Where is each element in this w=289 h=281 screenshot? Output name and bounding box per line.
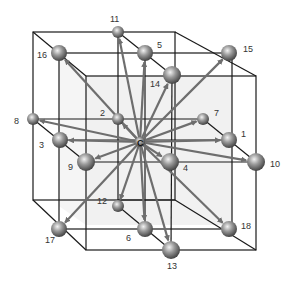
node-label-7: 7 xyxy=(214,108,219,118)
node-label-17: 17 xyxy=(45,235,55,245)
node-label-3: 3 xyxy=(39,140,44,150)
node-label-13: 13 xyxy=(167,261,177,271)
lattice-node-15 xyxy=(221,45,237,61)
lattice-svg: 123456789101112131415161718 C xyxy=(0,0,289,281)
lattice-diagram: 123456789101112131415161718 C xyxy=(0,0,289,281)
lattice-node-2 xyxy=(112,113,124,125)
node-label-10: 10 xyxy=(270,159,280,169)
node-label-5: 5 xyxy=(157,40,162,50)
lattice-node-7 xyxy=(197,113,209,125)
lattice-node-10 xyxy=(247,153,265,171)
lattice-node-3 xyxy=(52,132,68,148)
node-label-1: 1 xyxy=(241,129,246,139)
center-label: C xyxy=(137,138,144,148)
lattice-node-9 xyxy=(77,153,95,171)
lattice-node-11 xyxy=(112,26,124,38)
lattice-node-14 xyxy=(163,66,181,84)
node-label-12: 12 xyxy=(97,196,107,206)
node-label-9: 9 xyxy=(68,162,73,172)
lattice-node-16 xyxy=(51,45,67,61)
lattice-node-18 xyxy=(221,221,237,237)
lattice-node-12 xyxy=(112,200,124,212)
lattice-node-1 xyxy=(221,132,237,148)
node-label-2: 2 xyxy=(100,108,105,118)
node-label-16: 16 xyxy=(37,50,47,60)
node-label-6: 6 xyxy=(126,233,131,243)
node-label-15: 15 xyxy=(243,44,253,54)
node-label-4: 4 xyxy=(183,163,188,173)
node-label-11: 11 xyxy=(110,14,119,24)
node-label-8: 8 xyxy=(14,116,19,126)
lattice-node-8 xyxy=(27,113,39,125)
node-label-14: 14 xyxy=(150,79,160,89)
inner-shade xyxy=(86,76,232,225)
lattice-node-6 xyxy=(137,221,153,237)
lattice-node-5 xyxy=(137,45,153,61)
lattice-node-13 xyxy=(162,241,180,259)
node-label-18: 18 xyxy=(241,221,251,231)
lattice-node-4 xyxy=(161,153,179,171)
